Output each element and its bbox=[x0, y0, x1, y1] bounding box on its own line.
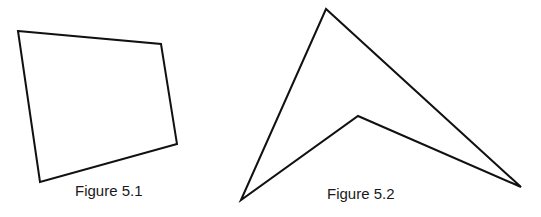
figure-5-1-quadrilateral bbox=[18, 31, 177, 182]
figure-5-2-caption: Figure 5.2 bbox=[327, 185, 395, 202]
figure-5-1-caption: Figure 5.1 bbox=[75, 182, 143, 199]
figure-5-2-dart bbox=[241, 9, 521, 200]
